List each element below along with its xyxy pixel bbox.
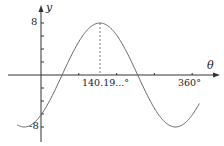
y-axis-arrow-icon [39, 5, 44, 12]
y-axis-label: y [46, 2, 52, 13]
x-axis-arrow-icon [213, 73, 220, 78]
x-axis-label: θ [207, 60, 214, 71]
x-peak-label: 140.19...° [82, 78, 129, 88]
x-end-label: 360° [178, 78, 201, 88]
y-min-label: -8 [29, 121, 39, 131]
y-max-label: 8 [31, 17, 37, 27]
